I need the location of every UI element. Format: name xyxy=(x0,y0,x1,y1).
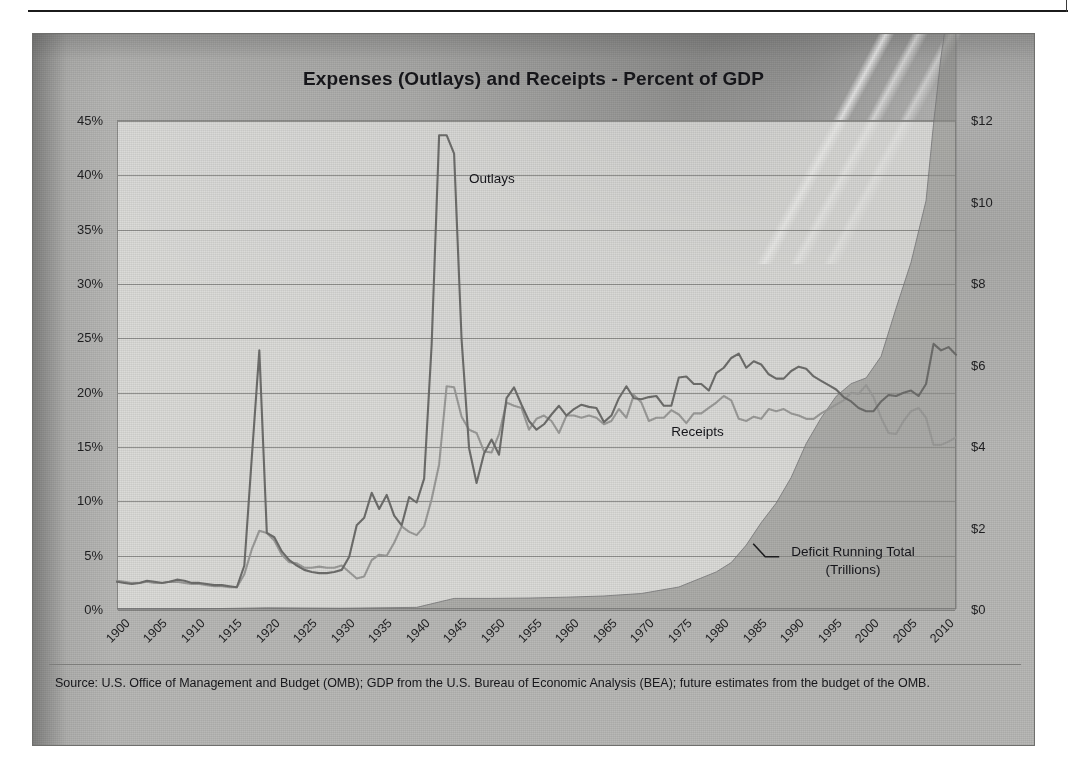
x-axis-tick-label: 1955 xyxy=(507,616,545,654)
x-axis-tick-label: 1950 xyxy=(469,616,507,654)
x-axis-tick-label: 1935 xyxy=(357,616,395,654)
annotation-deficit-line2: (Trillions) xyxy=(791,561,915,579)
annotation-receipts: Receipts xyxy=(671,424,724,439)
y2-axis-tick-label: $4 xyxy=(971,439,985,454)
series-deficit-running-total xyxy=(117,33,956,609)
y-axis-tick-label: 35% xyxy=(77,221,103,236)
x-axis-tick-label: 1995 xyxy=(806,616,844,654)
y2-axis-tick-label: $6 xyxy=(971,357,985,372)
y-axis-tick-label: 0% xyxy=(84,602,103,617)
y-axis-tick-label: 20% xyxy=(77,384,103,399)
annotation-deficit-line1: Deficit Running Total xyxy=(791,543,915,561)
x-axis-tick-label: 1960 xyxy=(544,616,582,654)
y-axis-tick-label: 45% xyxy=(77,113,103,128)
x-axis-tick-label: 2010 xyxy=(919,616,957,654)
x-axis-tick-label: 1980 xyxy=(694,616,732,654)
x-axis-tick-label: 1945 xyxy=(432,616,470,654)
x-axis-tick-label: 1930 xyxy=(319,616,357,654)
x-axis-tick-label: 1905 xyxy=(132,616,170,654)
x-axis-tick-label: 1940 xyxy=(394,616,432,654)
y-axis-tick-label: 30% xyxy=(77,276,103,291)
series-layer xyxy=(117,120,956,609)
y-axis-tick-label: 15% xyxy=(77,439,103,454)
chart-title: Expenses (Outlays) and Receipts - Percen… xyxy=(33,68,1034,90)
page-corner-tick xyxy=(1066,0,1067,12)
annotation-deficit-running-total: Deficit Running Total (Trillions) xyxy=(791,543,915,579)
chart-figure: Expenses (Outlays) and Receipts - Percen… xyxy=(32,33,1035,746)
y2-axis-tick-label: $2 xyxy=(971,520,985,535)
x-axis-tick-label: 1900 xyxy=(95,616,133,654)
x-axis-tick-label: 1925 xyxy=(282,616,320,654)
x-axis-tick-label: 2005 xyxy=(881,616,919,654)
gridline xyxy=(118,610,955,611)
x-axis-tick-label: 1915 xyxy=(207,616,245,654)
y-axis-tick-label: 5% xyxy=(84,547,103,562)
y-axis-tick-label: 10% xyxy=(77,493,103,508)
x-axis-tick-label: 1975 xyxy=(657,616,695,654)
x-axis-tick-label: 1965 xyxy=(582,616,620,654)
x-axis-tick-label: 1985 xyxy=(731,616,769,654)
source-divider xyxy=(49,664,1021,665)
y2-axis-tick-label: $10 xyxy=(971,194,993,209)
y-axis-tick-label: 40% xyxy=(77,167,103,182)
y2-axis-tick-label: $8 xyxy=(971,276,985,291)
source-note: Source: U.S. Office of Management and Bu… xyxy=(55,674,1015,693)
x-axis-tick-label: 1910 xyxy=(170,616,208,654)
y2-axis-tick-label: $12 xyxy=(971,113,993,128)
y2-axis-tick-label: $0 xyxy=(971,602,985,617)
x-axis-tick-label: 2000 xyxy=(844,616,882,654)
annotation-outlays: Outlays xyxy=(469,171,515,186)
x-axis-tick-label: 1920 xyxy=(245,616,283,654)
x-axis-tick-label: 1990 xyxy=(769,616,807,654)
page-header-rule xyxy=(28,10,1068,12)
y-axis-tick-label: 25% xyxy=(77,330,103,345)
x-axis-tick-label: 1970 xyxy=(619,616,657,654)
